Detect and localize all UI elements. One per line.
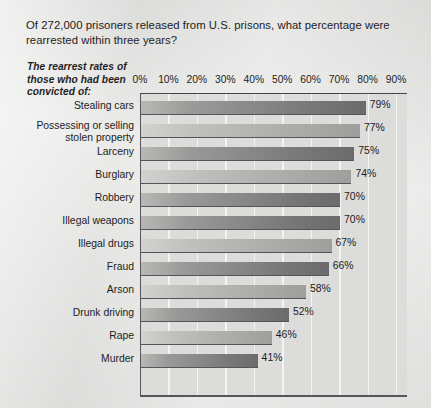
category-label: Fraud [4,261,134,273]
bar [141,101,366,115]
bar-fill [141,262,329,276]
value-label: 75% [358,145,379,156]
bar-fill [141,193,340,207]
bar [141,216,340,230]
bar-fill [141,216,340,230]
bar-fill [141,101,366,115]
bar [141,147,354,161]
category-label: Drunk driving [4,307,134,319]
value-label: 52% [293,306,314,317]
value-label: 46% [276,329,297,340]
bar-row: Drunk driving52% [0,304,431,327]
bar-row: Burglary74% [0,166,431,189]
bar-fill [141,170,351,184]
bar [141,193,340,207]
category-label: Rape [4,330,134,342]
category-label: Murder [4,353,134,365]
bar [141,331,272,345]
bar-fill [141,239,332,253]
bar-row: Illegal weapons70% [0,212,431,235]
bar-row: Possessing or selling stolen property77% [0,120,431,143]
bar-fill [141,285,306,299]
bar [141,262,329,276]
category-label: Larceny [4,146,134,158]
value-label: 70% [344,191,365,202]
bar [141,285,306,299]
bar-fill [141,308,289,322]
bar-rows: Stealing cars79%Possessing or selling st… [0,0,431,408]
bar-row: Fraud66% [0,258,431,281]
bar-fill [141,331,272,345]
category-label: Burglary [4,169,134,181]
category-label: Illegal drugs [4,238,134,250]
category-label: Illegal weapons [4,215,134,227]
bar [141,308,289,322]
value-label: 79% [370,99,391,110]
bar-row: Murder41% [0,350,431,373]
category-label: Robbery [4,192,134,204]
bar-row: Arson58% [0,281,431,304]
bar-fill [141,124,360,138]
value-label: 74% [355,168,376,179]
bar [141,354,258,368]
bar-fill [141,354,258,368]
value-label: 66% [333,260,354,271]
category-label: Possessing or selling stolen property [4,120,134,144]
bar-row: Larceny75% [0,143,431,166]
bar [141,239,332,253]
x-axis-bottom-line [140,395,407,397]
bar-row: Rape46% [0,327,431,350]
bar-fill [141,147,354,161]
bar [141,124,360,138]
category-label: Arson [4,284,134,296]
value-label: 77% [364,122,385,133]
bar-row: Robbery70% [0,189,431,212]
value-label: 41% [262,352,283,363]
value-label: 67% [336,237,357,248]
chart-figure: Of 272,000 prisoners released from U.S. … [0,0,431,408]
value-label: 70% [344,214,365,225]
bar [141,170,351,184]
category-label: Stealing cars [4,100,134,112]
bar-row: Stealing cars79% [0,97,431,120]
value-label: 58% [310,283,331,294]
bar-row: Illegal drugs67% [0,235,431,258]
